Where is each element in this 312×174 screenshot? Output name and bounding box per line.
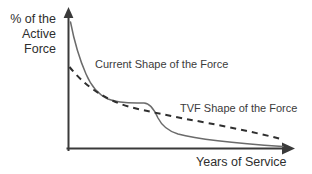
y-axis-label-line-1: % of the bbox=[10, 12, 56, 26]
chart-canvas: % of the Active Force Years of Service C… bbox=[0, 0, 312, 174]
series-current-shape-curve bbox=[71, 22, 284, 147]
y-axis-arrow-icon bbox=[64, 7, 74, 18]
chart-figure: % of the Active Force Years of Service C… bbox=[0, 0, 312, 174]
annotation-current-shape-label: Current Shape of the Force bbox=[95, 58, 228, 70]
y-axis-label: % of the Active Force bbox=[10, 12, 56, 56]
y-axis-label-line-2: Active bbox=[22, 27, 56, 41]
x-axis-label: Years of Service bbox=[196, 155, 287, 169]
y-axis-label-line-3: Force bbox=[24, 42, 56, 56]
x-axis-arrow-icon bbox=[282, 143, 295, 155]
annotation-tvf-shape-label: TVF Shape of the Force bbox=[180, 102, 297, 114]
